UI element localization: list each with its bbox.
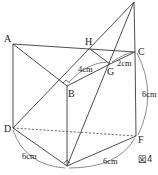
- measure-EF: 6cm: [103, 156, 118, 166]
- measure-BG: 4cm: [78, 64, 93, 74]
- right-angle-mark-B: [63, 80, 70, 83]
- point-label-A: A: [4, 33, 12, 44]
- point-label-B: B: [68, 88, 75, 99]
- measure-CF: 6cm: [142, 89, 157, 99]
- point-label-F: F: [138, 134, 144, 145]
- measure-DE: 6cm: [22, 151, 37, 161]
- point-label-G: G: [107, 66, 114, 77]
- line-DP: [13, 2, 134, 128]
- point-label-C: C: [138, 46, 145, 57]
- point-label-H: H: [85, 36, 92, 47]
- point-label-D: D: [4, 123, 11, 134]
- dimension-arc-DE: [13, 130, 65, 168]
- figure-caption: 図4: [138, 154, 152, 164]
- edge-CF: [135, 52, 136, 136]
- hidden-edge-DF: [13, 128, 136, 136]
- line-CP: [134, 2, 135, 52]
- dimension-arc-EF: [69, 138, 135, 168]
- triangular-prism-diagram: A H C G B D F 4cm 2cm 6cm 6cm 6cm 図4: [0, 0, 158, 175]
- measure-GC: 2cm: [117, 58, 132, 68]
